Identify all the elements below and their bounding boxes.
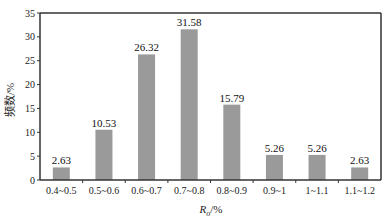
x-tick-label: 0.4~0.5: [46, 185, 76, 196]
y-tick-label: 0: [30, 175, 35, 186]
y-axis-title: 频数/%: [3, 83, 16, 117]
y-tick-label: 25: [25, 55, 35, 66]
y-tick-label: 10: [25, 127, 35, 138]
plot-area: [40, 13, 381, 180]
x-tick-label: 0.6~0.7: [131, 185, 161, 196]
x-axis-title-unit: /%: [210, 203, 222, 215]
bar: [95, 130, 112, 180]
x-tick-label: 0.9~1: [263, 185, 286, 196]
x-tick-label: 0.5~0.6: [89, 185, 119, 196]
bar: [223, 105, 240, 180]
y-tick-label: 5: [30, 151, 35, 162]
bar-value-label: 2.63: [350, 154, 370, 166]
bar-value-label: 31.58: [177, 16, 202, 28]
x-axis: 0.4~0.50.5~0.60.6~0.70.7~0.80.8~0.90.9~1…: [40, 180, 381, 196]
bar: [53, 167, 70, 180]
x-tick-label: 1~1.1: [306, 185, 329, 196]
bar: [138, 54, 155, 180]
y-tick-label: 30: [25, 31, 35, 42]
y-tick-label: 15: [25, 103, 35, 114]
x-tick-label: 0.8~0.9: [217, 185, 247, 196]
bar-chart: 2.6310.5326.3231.5815.795.265.262.63 051…: [0, 0, 387, 219]
y-tick-label: 35: [25, 8, 35, 19]
bar-value-label: 10.53: [92, 117, 117, 129]
x-axis-title: Ro/%: [199, 203, 223, 218]
bar: [181, 29, 198, 180]
bars-group: 2.6310.5326.3231.5815.795.265.262.63: [52, 16, 370, 180]
bar-value-label: 26.32: [134, 41, 159, 53]
x-tick-label: 0.7~0.8: [174, 185, 204, 196]
bar-value-label: 5.26: [307, 142, 327, 154]
y-axis: 05101520253035: [25, 8, 40, 186]
bar: [309, 155, 326, 180]
y-tick-label: 20: [25, 79, 35, 90]
bar: [351, 167, 368, 180]
bar-value-label: 2.63: [52, 154, 72, 166]
x-tick-label: 1.1~1.2: [344, 185, 374, 196]
bar: [266, 155, 283, 180]
bar-value-label: 5.26: [265, 142, 285, 154]
bar-value-label: 15.79: [219, 92, 244, 104]
